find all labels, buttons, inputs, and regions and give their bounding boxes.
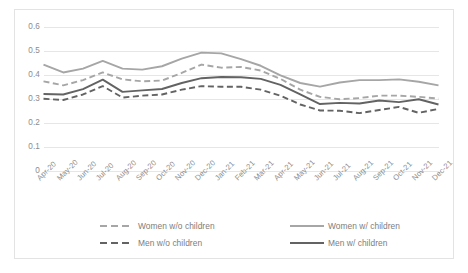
series-line-women-w-children <box>44 53 439 87</box>
y-axis-tick-label: 0.4 <box>14 70 40 79</box>
legend-item-label: Men w/ children <box>328 238 387 248</box>
legend-item-label: Women w/o children <box>138 221 215 231</box>
legend-item[interactable]: Women w/o children <box>100 219 215 232</box>
chart-legend: Women w/o childrenWomen w/ childrenMen w… <box>0 219 468 257</box>
gridlines <box>44 28 439 172</box>
y-axis-tick-label: 0.2 <box>14 118 40 127</box>
y-axis-tick-label: 0.5 <box>14 46 40 55</box>
legend-line-icon <box>100 221 134 231</box>
y-axis-tick-label: 0.1 <box>14 142 40 151</box>
legend-item[interactable]: Men w/ children <box>290 236 387 249</box>
legend-item[interactable]: Women w/ children <box>290 219 400 232</box>
legend-line-icon <box>100 238 134 248</box>
legend-line-icon <box>290 238 324 248</box>
legend-item-label: Men w/o children <box>138 238 202 248</box>
legend-item-label: Women w/ children <box>328 221 400 231</box>
series-line-men-w-children <box>44 77 439 105</box>
y-axis-tick-label: 0.6 <box>14 22 40 31</box>
legend-item[interactable]: Men w/o children <box>100 236 202 249</box>
legend-line-icon <box>290 221 324 231</box>
y-axis-tick-label: 0.3 <box>14 94 40 103</box>
series-line-women-w-o-children <box>44 65 439 100</box>
